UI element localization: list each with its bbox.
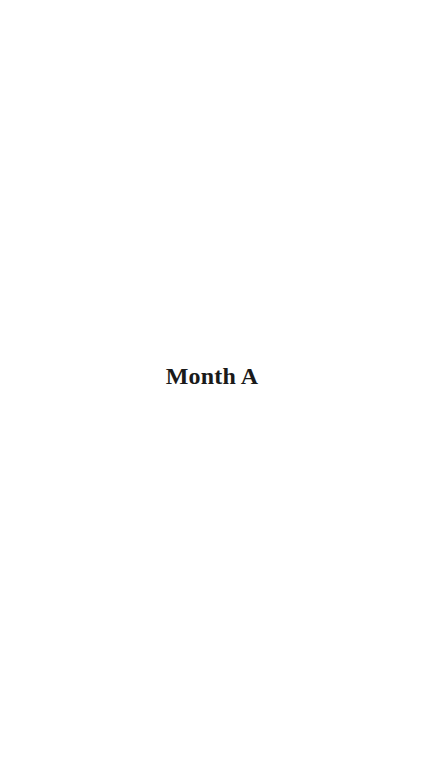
page-title: Month A <box>166 362 259 390</box>
document-page: Month A <box>0 0 444 766</box>
heading-block: Month A <box>0 362 444 390</box>
